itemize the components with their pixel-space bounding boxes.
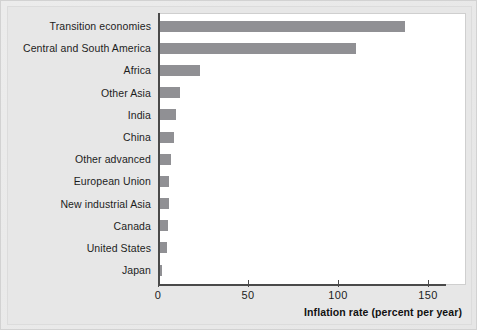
bar-row: Other advanced (1, 148, 477, 170)
category-label: Other Asia (1, 87, 151, 99)
category-label: Japan (1, 264, 151, 276)
bar-row: New industrial Asia (1, 193, 477, 215)
bar (160, 87, 180, 98)
x-tick-label: 0 (155, 289, 161, 301)
bar-row: Central and South America (1, 37, 477, 59)
bar-row: Africa (1, 59, 477, 81)
bar-track (160, 126, 174, 148)
bar-row: Other Asia (1, 82, 477, 104)
bar-track (160, 170, 169, 192)
bar (160, 242, 167, 253)
bar (160, 132, 174, 143)
bar-track (160, 104, 176, 126)
bar-row: India (1, 104, 477, 126)
bar-track (160, 15, 405, 37)
x-tick-mark (428, 280, 429, 287)
category-label: Canada (1, 220, 151, 232)
bar-row: United States (1, 237, 477, 259)
bar-rows: Transition economiesCentral and South Am… (1, 15, 477, 283)
bar-row: European Union (1, 170, 477, 192)
bar (160, 220, 168, 231)
x-axis-title: Inflation rate (percent per year) (304, 306, 462, 318)
bar-row: Transition economies (1, 15, 477, 37)
bar (160, 109, 176, 120)
category-label: Other advanced (1, 153, 151, 165)
bar-row: China (1, 126, 477, 148)
category-label: New industrial Asia (1, 198, 151, 210)
bar-track (160, 148, 171, 170)
category-label: China (1, 131, 151, 143)
bar (160, 43, 356, 54)
bar-track (160, 59, 200, 81)
x-tick-mark (248, 280, 249, 287)
bar (160, 65, 200, 76)
bar (160, 154, 171, 165)
bar (160, 176, 169, 187)
x-tick-mark (158, 280, 159, 287)
category-label: Africa (1, 64, 151, 76)
bar (160, 198, 169, 209)
category-label: European Union (1, 175, 151, 187)
bar-track (160, 193, 169, 215)
bar-track (160, 82, 180, 104)
bar-track (160, 37, 356, 59)
x-tick-label: 50 (242, 289, 255, 301)
bar (160, 21, 405, 32)
category-label: Central and South America (1, 42, 151, 54)
x-tick-mark (338, 280, 339, 287)
bar-row: Canada (1, 215, 477, 237)
category-label: Transition economies (1, 20, 151, 32)
x-tick-label: 150 (418, 289, 437, 301)
category-label: India (1, 109, 151, 121)
x-tick-label: 100 (328, 289, 347, 301)
bar-track (160, 237, 167, 259)
bar (160, 265, 162, 276)
bar-track (160, 215, 168, 237)
bar-track (160, 259, 162, 281)
x-axis-line (158, 284, 446, 286)
category-label: United States (1, 242, 151, 254)
chart-figure: Transition economiesCentral and South Am… (0, 0, 477, 330)
bar-row: Japan (1, 259, 477, 281)
